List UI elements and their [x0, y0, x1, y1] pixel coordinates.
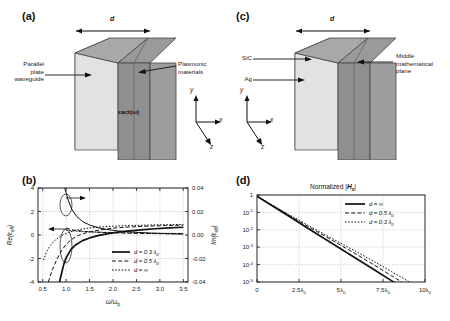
panel-a-slab-2	[150, 63, 176, 160]
panel-b-yticklabel: 0	[31, 232, 35, 238]
panel-c-axes-triad	[245, 95, 273, 145]
panel-b-ylabel: Re(εeff)	[6, 225, 15, 245]
panel-c-right-annotation: Middle mathematical plane	[396, 52, 448, 75]
panel-b-y2ticklabel: 0.04	[192, 185, 204, 191]
panel-b-legend-label: d = ∞	[134, 267, 148, 273]
panel-b-yticklabel: -4	[29, 279, 35, 285]
panel-b-y2ticklabel: -0.04	[192, 279, 206, 285]
panel-b-series-line	[65, 188, 184, 234]
panel-a-z-axis-label: z	[210, 143, 213, 150]
panel-d-legend-label: d = 0.5 λ0	[369, 210, 394, 218]
panel-b-y2ticklabel: 0.00	[192, 232, 204, 238]
panel-a-face-label: εact(ω)	[118, 108, 139, 115]
panel-d-yticklabel: 10-3	[242, 243, 253, 250]
panel-d-yticklabel: 10-5	[242, 278, 253, 285]
panel-a-dim-label: d	[110, 15, 114, 22]
panel-c-dim-label: d	[330, 15, 334, 22]
panel-d-chart: 02.5λ05λ07.5λ010λ0110-110-210-310-410-5N…	[225, 160, 450, 321]
panel-a-dim-arrow-left	[76, 29, 82, 34]
panel-b-chart: 0.51.01.52.02.53.03.5-4-2024-0.04-0.020.…	[0, 160, 225, 321]
panel-c-dim-arrow-right	[364, 29, 370, 34]
panel-b-legend-label: d = 0.5 λ0	[134, 258, 159, 266]
panel-a-y-axis-label: y	[190, 86, 193, 93]
panel-c-x-axis-label: x	[270, 116, 273, 123]
panel-a-x-axis-label: x	[219, 116, 222, 123]
panel-d-xticklabel: 0	[255, 287, 259, 293]
figure-root: (a)	[0, 0, 450, 321]
panel-d-xticklabel: 5λ0	[337, 287, 346, 295]
panel-b-xlabel: ω/ωp	[106, 298, 121, 307]
panel-c-ag-annotation: Ag	[232, 75, 252, 83]
panel-d-yticklabel: 10-4	[242, 261, 253, 268]
panel-c-y-axis-label: y	[240, 86, 243, 93]
panel-b-xticklabel: 1.5	[85, 286, 94, 292]
panel-b-yticklabel: -2	[29, 256, 35, 262]
panel-c-sic-annotation: SiC	[232, 54, 252, 62]
panel-c-slab-2	[370, 63, 396, 160]
panel-c-dim-arrow-left	[296, 29, 302, 34]
panel-d-yticklabel: 10-1	[242, 208, 253, 215]
panel-d-xticklabel: 2.5λ0	[292, 287, 306, 295]
panel-b-y2ticklabel: -0.02	[192, 256, 206, 262]
panel-b-y2label: Im(εeff)	[210, 225, 219, 244]
panel-b-xticklabel: 3.5	[179, 286, 188, 292]
panel-b-xticklabel: 0.5	[39, 286, 48, 292]
panel-a-left-face	[75, 53, 118, 150]
panel-d-legend-label: d = ∞	[369, 201, 383, 207]
panel-d-xticklabel: 7.5λ0	[376, 287, 390, 295]
panel-b-yticklabel: 2	[31, 209, 35, 215]
panel-d-legend-label: d = 0.3 λ0	[369, 219, 394, 227]
panel-d-yticklabel: 10-2	[242, 226, 253, 233]
panel-c-svg	[225, 0, 450, 160]
panel-c-z-axis-label: z	[261, 143, 264, 150]
panel-b-y2ticklabel: 0.02	[192, 209, 204, 215]
panel-d-svg: 02.5λ05λ07.5λ010λ0110-110-210-310-410-5N…	[225, 160, 450, 321]
panel-b-svg: 0.51.01.52.02.53.03.5-4-2024-0.04-0.020.…	[0, 160, 225, 321]
panel-a-right-annotation: Plasmonic materials	[178, 60, 223, 75]
panel-b-left-arrow-head	[48, 227, 54, 232]
panel-b-xticklabel: 1.0	[62, 286, 71, 292]
panel-b-xticklabel: 3.0	[156, 286, 165, 292]
panel-a-left-annotation: Parallel plate waveguide	[2, 60, 44, 83]
panel-c-schematic	[225, 0, 450, 160]
panel-c-left-face	[295, 53, 338, 150]
panel-d-yticklabel: 1	[250, 192, 254, 198]
panel-b-yticklabel: 4	[31, 185, 35, 191]
panel-b-legend-label: d = 0.3 λ0	[134, 249, 159, 257]
panel-b-xticklabel: 2.5	[132, 286, 141, 292]
panel-d-xticklabel: 10λ0	[419, 287, 432, 295]
panel-a-axes-triad	[194, 95, 222, 145]
panel-d-series-line	[257, 196, 422, 290]
panel-b-xticklabel: 2.0	[109, 286, 118, 292]
panel-d-series-group	[257, 196, 422, 290]
panel-b-right-arrow-head	[80, 196, 86, 201]
panel-d-title: Normalized |Hx|	[310, 183, 356, 192]
panel-a-dim-arrow-right	[144, 29, 150, 34]
